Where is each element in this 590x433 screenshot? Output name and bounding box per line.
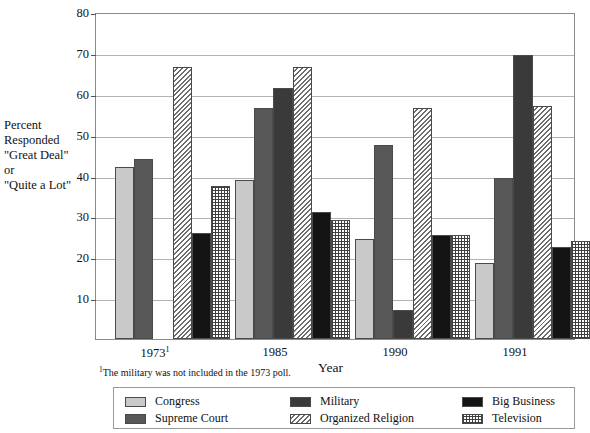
legend-item-bigbiz[interactable]: Big Business [462, 394, 555, 409]
x-axis-label-1973: 19731 [95, 345, 215, 361]
x-axis-label-1991: 1991 [455, 345, 575, 360]
legend-item-religion[interactable]: Organized Religion [290, 411, 414, 426]
chart-legend: CongressMilitaryBig BusinessSupreme Cour… [113, 387, 575, 429]
legend-item-congress[interactable]: Congress [125, 394, 200, 409]
footnote-marker: 1 [166, 345, 170, 354]
y-tick-label-60: 60 [77, 88, 90, 103]
chart-footnote: 1The military was not included in the 19… [99, 365, 291, 378]
bar-bigbiz-1991[interactable] [552, 247, 571, 339]
bar-religion-1973[interactable] [173, 67, 192, 339]
legend-swatch-congress-icon [125, 397, 146, 407]
plot-area: 1020304050607080 [95, 13, 575, 340]
y-tick-label-70: 70 [77, 47, 90, 62]
bar-group-1973 [96, 14, 216, 339]
legend-label-bigbiz: Big Business [492, 394, 555, 409]
bar-group-1985 [216, 14, 336, 339]
legend-swatch-religion-icon [290, 414, 311, 424]
bar-congress-1985[interactable] [235, 180, 254, 339]
x-axis-label-1990: 1990 [335, 345, 455, 360]
y-tick-label-10: 10 [77, 292, 90, 307]
y-caption-line-3: "Great Deal" [4, 148, 96, 163]
bar-religion-1991[interactable] [533, 106, 552, 339]
y-tick-label-30: 30 [77, 210, 90, 225]
x-axis-label-1985: 1985 [215, 345, 335, 360]
legend-label-military: Military [320, 394, 359, 409]
legend-item-supreme[interactable]: Supreme Court [125, 411, 228, 426]
y-tick-label-80: 80 [77, 6, 90, 21]
bar-supreme-1991[interactable] [494, 178, 513, 339]
bar-military-1985[interactable] [273, 88, 292, 339]
clipped-chart-title [95, 0, 575, 2]
legend-label-religion: Organized Religion [320, 411, 414, 426]
bar-supreme-1985[interactable] [254, 108, 273, 339]
bar-bigbiz-1985[interactable] [312, 212, 331, 339]
bar-tv-1991[interactable] [571, 241, 590, 339]
legend-swatch-military-icon [290, 397, 311, 407]
y-tick-label-20: 20 [77, 251, 90, 266]
bar-bigbiz-1990[interactable] [432, 235, 451, 339]
legend-swatch-supreme-icon [125, 414, 146, 424]
legend-swatch-tv-icon [462, 414, 483, 424]
bar-bigbiz-1973[interactable] [192, 233, 211, 339]
bar-religion-1985[interactable] [293, 67, 312, 339]
x-axis-title: Year [318, 360, 343, 376]
y-tick-label-50: 50 [77, 129, 90, 144]
bar-religion-1990[interactable] [413, 108, 432, 339]
bar-congress-1973[interactable] [115, 167, 134, 339]
bar-group-1990 [336, 14, 456, 339]
bar-military-1990[interactable] [393, 310, 412, 339]
bar-congress-1990[interactable] [355, 239, 374, 339]
y-tick-label-40: 40 [77, 170, 90, 185]
legend-swatch-bigbiz-icon [462, 397, 483, 407]
bar-group-1991 [456, 14, 576, 339]
bar-military-1991[interactable] [513, 55, 532, 339]
legend-label-tv: Television [492, 411, 542, 426]
legend-label-supreme: Supreme Court [155, 411, 228, 426]
bar-congress-1991[interactable] [475, 263, 494, 339]
bar-supreme-1973[interactable] [134, 159, 153, 339]
footnote-marker: 1 [99, 365, 103, 374]
bar-supreme-1990[interactable] [374, 145, 393, 339]
legend-item-tv[interactable]: Television [462, 411, 542, 426]
legend-label-congress: Congress [155, 394, 200, 409]
legend-item-military[interactable]: Military [290, 394, 359, 409]
